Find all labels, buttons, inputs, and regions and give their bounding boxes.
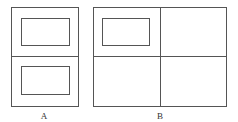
diagram-b-horizontal-divider	[93, 56, 227, 57]
diagram-b-vertical-divider	[160, 7, 161, 107]
diagram-a-label: A	[34, 111, 54, 121]
diagram-a-inner-rect-top	[21, 18, 70, 46]
diagram-b-inner-rect	[102, 18, 150, 46]
diagram-b-label: B	[150, 111, 170, 121]
diagram-a-inner-rect-bottom	[21, 66, 70, 95]
diagram-a-horizontal-divider	[11, 56, 79, 57]
